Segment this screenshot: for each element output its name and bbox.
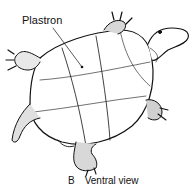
- figure-caption: BVentral view: [68, 176, 139, 186]
- plastron-label: Plastron: [22, 15, 62, 26]
- caption-text: Ventral view: [85, 175, 139, 186]
- mid-right-leg: [146, 100, 162, 120]
- turtle-ventral-illustration: [0, 0, 194, 189]
- caption-letter: B: [68, 175, 75, 186]
- head: [148, 28, 188, 60]
- front-left-leg: [15, 52, 40, 70]
- shell-outline: [30, 30, 153, 144]
- rear-right-leg: [74, 142, 97, 171]
